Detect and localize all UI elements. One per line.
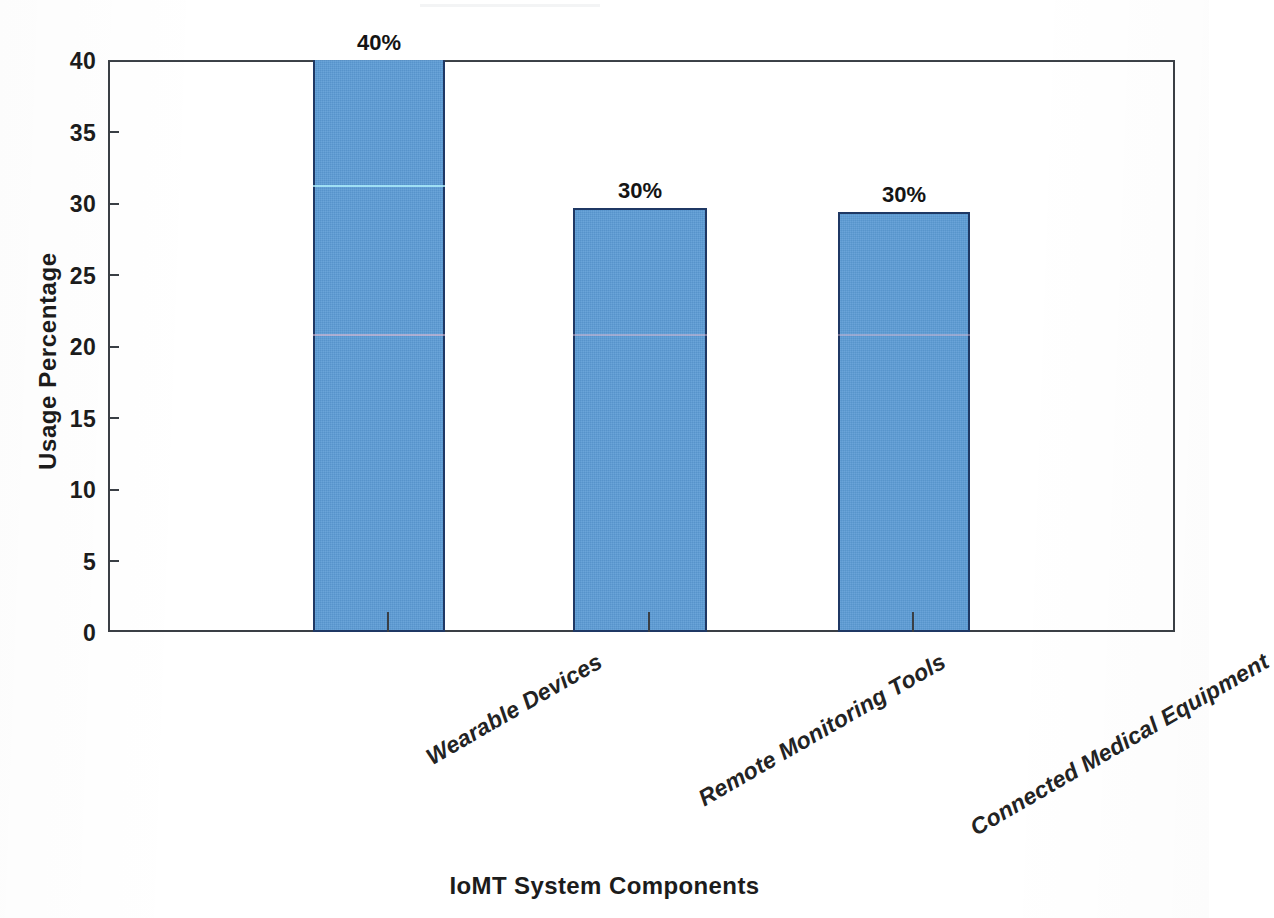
y-tick-mark-25 xyxy=(108,274,119,276)
y-tick-mark-30 xyxy=(108,203,119,205)
x-tick-label-connected-medical-equipment: Connected Medical Equipment xyxy=(966,648,1274,841)
y-tick-label-20: 20 xyxy=(46,334,96,361)
x-tick-mark-wearable-devices xyxy=(387,612,389,632)
y-tick-mark-10 xyxy=(108,489,119,491)
y-tick-mark-5 xyxy=(108,560,119,562)
x-tick-label-wearable-devices: Wearable Devices xyxy=(422,648,607,771)
bar-value-label-remote-monitoring-tools: 30% xyxy=(580,178,700,204)
y-tick-label-5: 5 xyxy=(46,549,96,576)
x-axis-title: IoMT System Components xyxy=(0,872,1209,900)
scan-streak xyxy=(420,4,600,7)
bar-value-label-connected-medical-equipment: 30% xyxy=(844,182,964,208)
bar-remote-monitoring-tools[interactable] xyxy=(573,208,707,632)
x-tick-mark-remote-monitoring-tools xyxy=(648,612,650,632)
bar-texture xyxy=(575,210,705,630)
y-tick-mark-35 xyxy=(108,131,119,133)
bar-texture xyxy=(315,60,443,630)
y-tick-label-15: 15 xyxy=(46,406,96,433)
y-tick-label-10: 10 xyxy=(46,477,96,504)
bar-value-label-wearable-devices: 40% xyxy=(319,30,439,56)
x-tick-mark-connected-medical-equipment xyxy=(912,612,914,632)
y-tick-label-0: 0 xyxy=(46,620,96,647)
y-tick-label-35: 35 xyxy=(46,120,96,147)
y-tick-label-25: 25 xyxy=(46,263,96,290)
y-tick-mark-15 xyxy=(108,417,119,419)
y-tick-mark-20 xyxy=(108,346,119,348)
bar-wearable-devices[interactable] xyxy=(313,60,445,632)
bar-connected-medical-equipment[interactable] xyxy=(838,212,970,632)
y-tick-label-40: 40 xyxy=(46,48,96,75)
x-tick-label-remote-monitoring-tools: Remote Monitoring Tools xyxy=(694,648,951,812)
y-tick-label-30: 30 xyxy=(46,191,96,218)
bar-texture xyxy=(840,214,968,630)
